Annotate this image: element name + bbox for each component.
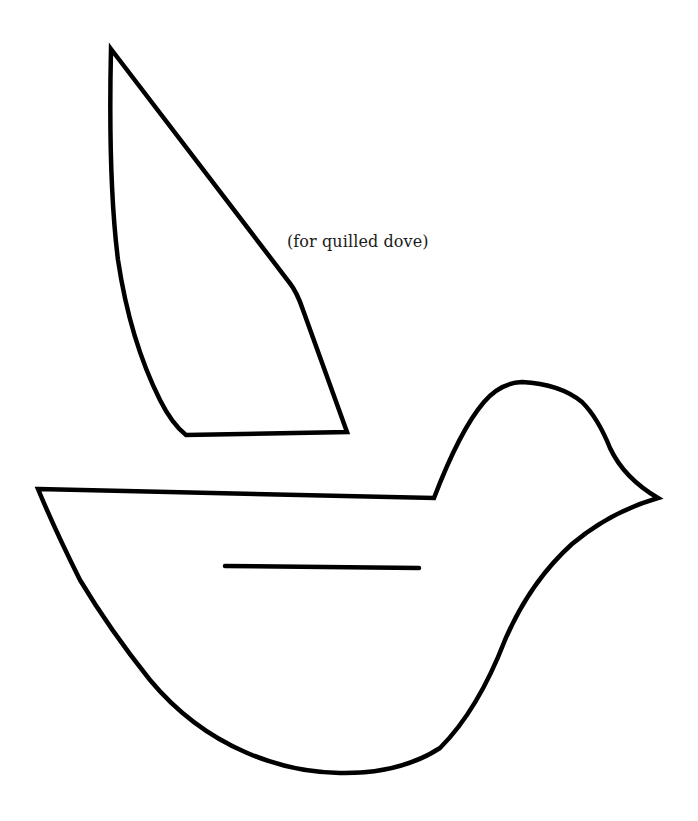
dove-template-drawing: [0, 0, 698, 821]
template-caption: (for quilled dove): [287, 232, 429, 251]
dove-body-outline: [38, 382, 658, 773]
wing-slot-line: [225, 566, 419, 568]
